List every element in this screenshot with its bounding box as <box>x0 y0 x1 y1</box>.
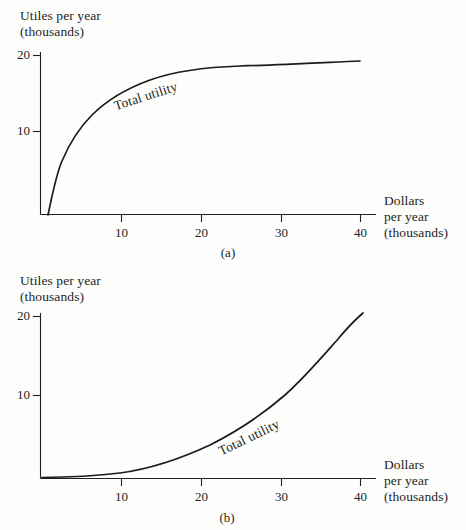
chart-panel-b: Utiles per year (thousands) 20 10 10 20 … <box>0 265 466 530</box>
panel-caption-a: (a) <box>198 246 258 260</box>
x-axis-title-a: Dollars per year (thousands) <box>384 193 448 241</box>
x-tick-label-40-b: 40 <box>340 490 381 504</box>
x-axis-title-b: Dollars per year (thousands) <box>384 457 448 505</box>
y-axis-title-b: Utiles per year (thousands) <box>20 273 101 305</box>
y-tick-label-20-a: 20 <box>0 48 30 62</box>
x-tick-label-10-b: 10 <box>101 490 142 504</box>
x-tick-label-40-a: 40 <box>340 226 381 240</box>
total-utility-curve-b <box>42 313 363 478</box>
y-tick-label-10-a: 10 <box>0 124 30 138</box>
x-tick-label-30-a: 30 <box>261 226 302 240</box>
y-tick-label-10-b: 10 <box>0 388 30 402</box>
y-tick-label-20-b: 20 <box>0 309 30 323</box>
x-tick-label-30-b: 30 <box>261 490 302 504</box>
x-tick-label-20-a: 20 <box>181 226 222 240</box>
y-axis-title-a: Utiles per year (thousands) <box>20 8 101 40</box>
x-tick-label-10-a: 10 <box>101 226 142 240</box>
utility-curves-figure: Utiles per year (thousands) 20 10 10 20 … <box>0 0 466 530</box>
panel-caption-b: (b) <box>197 511 257 525</box>
chart-panel-a: Utiles per year (thousands) 20 10 10 20 … <box>0 0 466 265</box>
x-tick-label-20-b: 20 <box>181 490 222 504</box>
total-utility-curve-a <box>48 61 360 215</box>
